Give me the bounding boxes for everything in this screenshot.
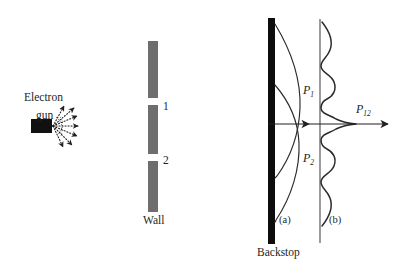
wall-label: Wall (143, 215, 164, 227)
curve-p2 (275, 85, 299, 222)
wall-group (148, 41, 158, 212)
electron-gun-label-line2: gun (36, 110, 53, 122)
p12-curve-label: P12 (356, 103, 371, 115)
slit-1-label: 1 (163, 101, 169, 113)
p2-subscript: 2 (310, 158, 314, 167)
panel-b-label: (b) (329, 215, 341, 226)
p12-subscript: 12 (363, 109, 371, 118)
backstop-bar (268, 18, 275, 244)
wall-segment-middle (148, 105, 158, 154)
curve-p1 (275, 24, 300, 178)
backstop-label: Backstop (257, 247, 300, 259)
p2-curve-label: P2 (303, 152, 314, 164)
panel-a-label: (a) (279, 215, 291, 226)
wall-segment-top (148, 41, 158, 98)
electron-rays (53, 106, 78, 147)
figure-graphics (0, 0, 406, 275)
panel-a-curves (275, 24, 300, 222)
slit-2-label: 2 (163, 155, 169, 167)
electron-gun-label-line1: Electron (24, 92, 63, 104)
p1-subscript: 1 (310, 90, 314, 99)
p1-curve-label: P1 (303, 84, 314, 96)
wall-segment-bottom (148, 161, 158, 212)
backstop-group (268, 18, 275, 244)
double-slit-figure: Electron gun 1 2 Wall P1 P2 P12 (a) (b) … (0, 0, 406, 275)
panel-b-group (309, 19, 388, 243)
